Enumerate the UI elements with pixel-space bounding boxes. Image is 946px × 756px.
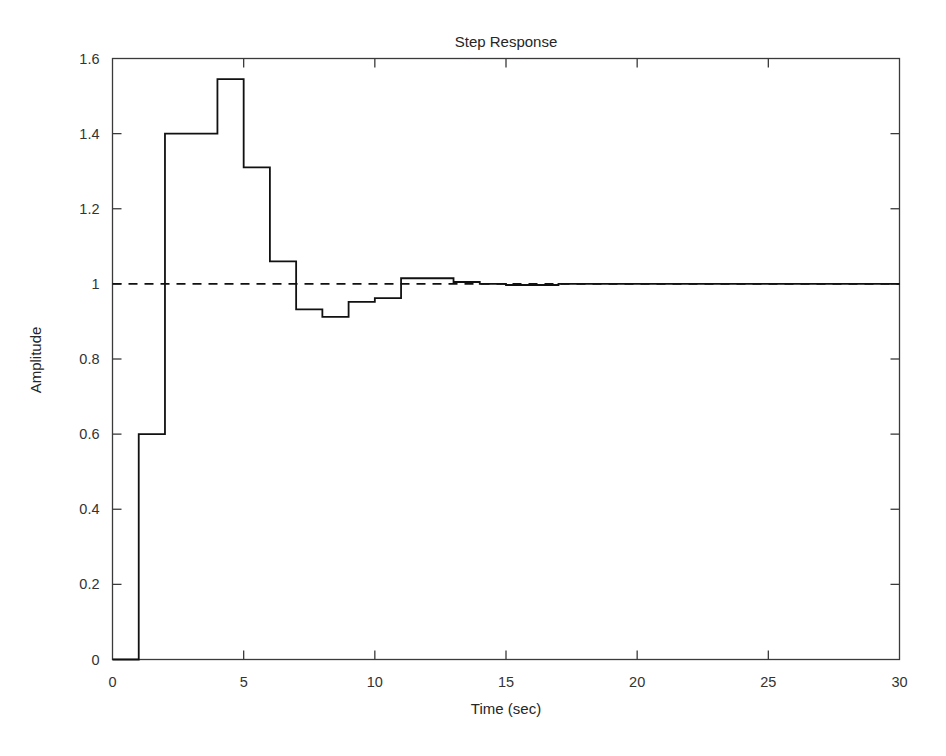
step-response-curve [113,79,900,659]
y-tick-label: 1.6 [79,51,99,67]
x-tick-label: 20 [629,674,645,690]
y-tick-label: 0.2 [79,576,99,592]
plot-frame [113,59,900,660]
x-axis-label: Time (sec) [471,700,541,717]
figure-canvas: Step Response 051015202530 00.20.40.60.8… [0,0,946,756]
x-tick-label: 10 [367,674,383,690]
step-response-chart: Step Response 051015202530 00.20.40.60.8… [0,0,946,756]
y-tick-label: 0.6 [79,426,99,442]
y-axis-label: Amplitude [27,327,44,394]
y-tick-label: 0 [91,652,99,668]
x-tick-label: 25 [760,674,776,690]
y-tick-label: 0.4 [79,501,99,517]
x-tick-label: 30 [891,674,907,690]
x-axis-ticks: 051015202530 [108,59,907,690]
y-axis-ticks: 00.20.40.60.811.21.41.6 [79,51,899,668]
x-tick-label: 0 [108,674,116,690]
y-tick-label: 1.4 [79,126,99,142]
y-tick-label: 0.8 [79,351,99,367]
y-tick-label: 1 [91,276,99,292]
x-tick-label: 15 [498,674,514,690]
y-tick-label: 1.2 [79,201,99,217]
x-tick-label: 5 [240,674,248,690]
chart-title: Step Response [455,33,558,50]
